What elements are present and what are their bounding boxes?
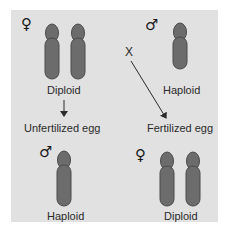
diagram-graphics	[0, 0, 230, 234]
arrow-diagonal-icon	[131, 61, 166, 118]
label-bottom-left-ploidy: Haploid	[47, 210, 84, 222]
chromosome-icon	[160, 152, 174, 206]
cross-marker: X	[125, 46, 133, 58]
label-top-left-ploidy: Diploid	[47, 84, 81, 96]
label-top-right-ploidy: Haploid	[163, 84, 200, 96]
chromosome-icon	[186, 152, 200, 206]
chromosome-icon	[45, 24, 59, 79]
female-symbol-icon: ♀	[21, 17, 32, 32]
chromosome-icon	[71, 24, 85, 79]
label-unfertilized-egg: Unfertilized egg	[24, 122, 100, 134]
chromosome-icon	[173, 23, 187, 69]
chromosome-icon	[57, 151, 71, 206]
label-bottom-right-ploidy: Diploid	[164, 210, 198, 222]
male-symbol-icon: ♂	[39, 145, 52, 160]
label-fertilized-egg: Fertilized egg	[147, 122, 213, 134]
male-symbol-icon: ♂	[145, 18, 158, 33]
female-symbol-icon: ♀	[135, 148, 146, 163]
